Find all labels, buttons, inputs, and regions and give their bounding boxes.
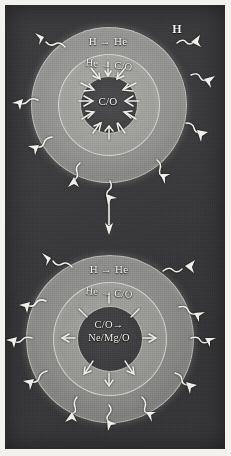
wavy-outflow-arrows-top (5, 5, 225, 205)
wavy-outflow-arrows-bottom (5, 237, 225, 447)
star-diagram-bottom: H → He He → C/O C/O→ Ne/Mg/O (5, 237, 225, 447)
stellar-evolution-figure: H → He He → C/O C/O H (0, 0, 231, 456)
figure-panel: H → He He → C/O C/O H (5, 5, 225, 449)
evolution-arrow (5, 191, 225, 241)
star-diagram-top: H → He He → C/O C/O H (5, 5, 225, 205)
